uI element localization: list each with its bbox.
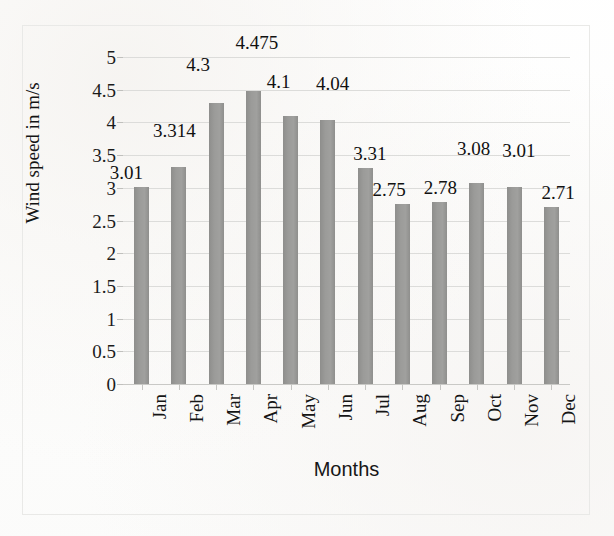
x-axis-tick-mark	[142, 384, 143, 390]
bar-value-label: 4.475	[235, 33, 278, 52]
bar[interactable]	[320, 120, 335, 384]
bar[interactable]	[507, 187, 522, 384]
bar-value-label: 2.75	[372, 180, 405, 199]
bar[interactable]	[469, 183, 484, 384]
y-axis-tick-label: 2	[107, 244, 117, 263]
x-axis-tick-mark	[514, 384, 515, 390]
bar-value-label: 3.08	[457, 139, 490, 158]
x-axis-tick-mark	[477, 384, 478, 390]
x-axis-tick-label-oct: Oct	[484, 394, 506, 421]
gridline	[123, 221, 570, 222]
gridline	[123, 384, 570, 385]
x-axis-tick-label-dec: Dec	[558, 394, 580, 425]
x-axis-tick-mark	[365, 384, 366, 390]
y-axis-title: Wind speed in m/s	[22, 58, 44, 248]
x-axis-tick-mark	[328, 384, 329, 390]
y-axis-tick-mark	[117, 122, 123, 123]
plot-area: 3.013.3144.34.4754.14.043.312.752.783.08…	[123, 57, 570, 384]
bar[interactable]	[171, 167, 186, 384]
y-axis-tick-mark	[117, 319, 123, 320]
x-axis-tick-label-jan: Jan	[149, 394, 171, 419]
y-axis-tick-mark	[117, 57, 123, 58]
gridline	[123, 286, 570, 287]
y-axis-tick-mark	[117, 221, 123, 222]
y-axis-tick-label: 0	[107, 375, 117, 394]
gridline	[123, 319, 570, 320]
x-axis-tick-mark	[291, 384, 292, 390]
bar[interactable]	[134, 187, 149, 384]
bar-value-label: 2.78	[424, 178, 457, 197]
x-axis-tick-label-sep: Sep	[447, 394, 469, 423]
x-axis-tick-labels: JanFebMarAprMayJunJulAugSepOctNovDec	[123, 390, 570, 450]
bar[interactable]	[283, 116, 298, 384]
bar-value-label: 4.3	[186, 55, 210, 74]
x-axis-tick-label-jun: Jun	[335, 394, 357, 420]
y-axis-tick-labels: 00.511.522.533.544.55	[78, 57, 116, 384]
x-axis-tick-label-jul: Jul	[372, 394, 394, 416]
bar-value-label: 3.31	[353, 144, 386, 163]
y-axis-tick-label: 1	[107, 310, 117, 329]
bar-value-label: 2.71	[541, 183, 574, 202]
y-axis-tick-mark	[117, 155, 123, 156]
y-axis-tick-mark	[117, 286, 123, 287]
x-axis-tick-label-may: May	[298, 394, 320, 429]
y-axis-tick-label: 1.5	[92, 277, 116, 296]
wind-speed-bar-chart-figure: Wind speed in m/s 00.511.522.533.544.55 …	[0, 0, 614, 536]
y-axis-tick-label: 5	[107, 48, 117, 67]
x-axis-tick-mark	[440, 384, 441, 390]
x-axis-tick-mark	[551, 384, 552, 390]
y-axis-tick-mark	[117, 90, 123, 91]
bar[interactable]	[246, 91, 261, 384]
x-axis-title: Months	[123, 458, 570, 481]
y-axis-tick-label: 4	[107, 113, 117, 132]
bar-value-label: 3.01	[502, 141, 535, 160]
x-axis-tick-label-nov: Nov	[521, 394, 543, 427]
bar[interactable]	[544, 207, 559, 384]
y-axis-tick-mark	[117, 188, 123, 189]
x-axis-tick-mark	[253, 384, 254, 390]
x-axis-tick-mark	[402, 384, 403, 390]
x-axis-tick-label-feb: Feb	[186, 394, 208, 423]
bar-value-label: 3.01	[110, 163, 143, 182]
bar[interactable]	[358, 168, 373, 384]
x-axis-tick-label-aug: Aug	[409, 394, 431, 427]
y-axis-tick-mark	[117, 384, 123, 385]
gridline	[123, 351, 570, 352]
y-axis-tick-label: 4.5	[92, 81, 116, 100]
y-axis-tick-mark	[117, 253, 123, 254]
bar-value-label: 3.314	[153, 121, 196, 140]
x-axis-tick-mark	[216, 384, 217, 390]
gridline	[123, 188, 570, 189]
bar[interactable]	[432, 202, 447, 384]
x-axis-tick-mark	[179, 384, 180, 390]
y-axis-tick-label: 2.5	[92, 212, 116, 231]
y-axis-tick-mark	[117, 351, 123, 352]
bar-value-label: 4.1	[267, 72, 291, 91]
bar[interactable]	[395, 204, 410, 384]
y-axis-tick-label: 0.5	[92, 342, 116, 361]
gridline	[123, 253, 570, 254]
bar-value-label: 4.04	[316, 74, 349, 93]
x-axis-tick-label-apr: Apr	[260, 394, 282, 424]
x-axis-tick-label-mar: Mar	[223, 394, 245, 426]
bar[interactable]	[209, 103, 224, 384]
